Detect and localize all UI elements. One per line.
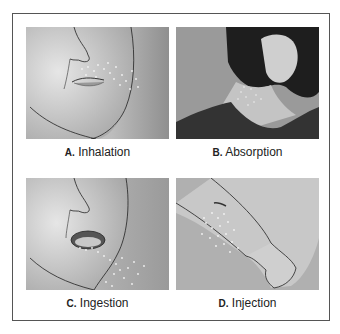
panel-ingestion-illustration <box>26 178 169 290</box>
caption-letter: A. <box>65 147 75 158</box>
panel-inhalation-illustration <box>26 27 169 139</box>
caption-label: Ingestion <box>80 296 129 310</box>
caption-injection: D. Injection <box>176 296 319 310</box>
caption-letter: D. <box>218 298 228 309</box>
caption-label: Inhalation <box>78 145 130 159</box>
caption-letter: B. <box>212 147 222 158</box>
caption-label: Injection <box>232 296 277 310</box>
caption-ingestion: C. Ingestion <box>26 296 169 310</box>
panel-injection-illustration <box>176 178 319 290</box>
caption-label: Absorption <box>225 145 282 159</box>
caption-absorption: B. Absorption <box>176 145 319 159</box>
caption-letter: C. <box>66 298 76 309</box>
panel-absorption-illustration <box>176 27 319 139</box>
caption-inhalation: A. Inhalation <box>26 145 169 159</box>
